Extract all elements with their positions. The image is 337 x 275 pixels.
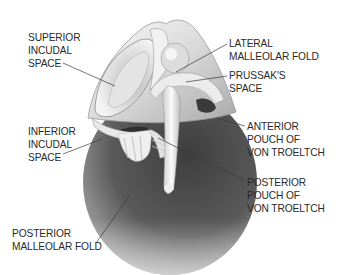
label-prussaks-space: PRUSSAK'S SPACE — [229, 70, 286, 96]
label-posterior-pouch-of-von-troeltch: POSTERIOR POUCH OF VON TROELTCH — [247, 177, 325, 215]
label-posterior-malleolar-fold: POSTERIOR MALLEOLAR FOLD — [12, 228, 102, 254]
label-inferior-incudal-space: INFERIOR INCUDAL SPACE — [28, 126, 76, 164]
label-anterior-pouch-of-von-troeltch: ANTERIOR POUCH OF VON TROELTCH — [247, 121, 325, 159]
label-lateral-malleolar-fold: LATERAL MALLEOLAR FOLD — [229, 38, 319, 64]
label-superior-incudal-space: SUPERIOR INCUDAL SPACE — [28, 32, 80, 70]
